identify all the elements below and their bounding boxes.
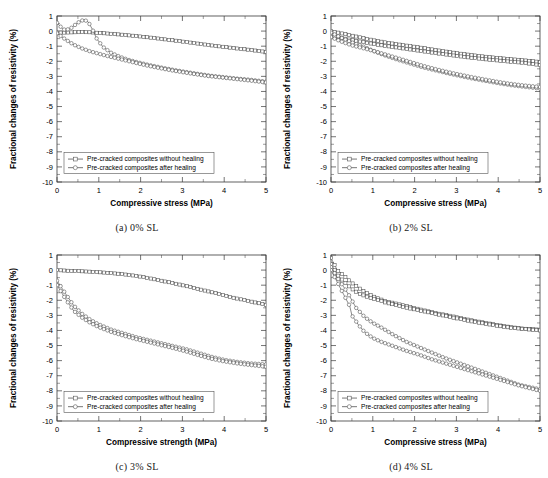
- legend-item[interactable]: Pre-cracked composites without healing: [342, 394, 478, 402]
- legend-item[interactable]: Pre-cracked composites after healing: [68, 164, 196, 172]
- data-marker-circle: [214, 75, 218, 79]
- legend-item[interactable]: Pre-cracked composites without healing: [68, 394, 204, 402]
- legend-item[interactable]: Pre-cracked composites after healing: [342, 403, 470, 411]
- data-marker-circle: [55, 32, 59, 36]
- data-marker-circle: [199, 354, 203, 358]
- data-marker-circle: [383, 328, 387, 332]
- data-marker-square: [225, 294, 228, 297]
- data-marker-circle: [509, 381, 513, 385]
- data-marker-square: [81, 31, 84, 34]
- data-marker-square: [340, 278, 343, 281]
- y-tick-label: -6: [320, 356, 327, 365]
- data-marker-square: [387, 41, 390, 44]
- data-marker-square: [416, 49, 419, 52]
- data-marker-square: [160, 279, 163, 282]
- data-marker-square: [221, 293, 224, 296]
- data-marker-square: [124, 273, 127, 276]
- data-marker-circle: [470, 366, 474, 370]
- data-marker-circle: [221, 76, 225, 80]
- panel-caption: (a) 0% SL: [0, 222, 274, 233]
- data-marker-square: [113, 272, 116, 275]
- data-marker-square: [448, 315, 451, 318]
- legend-item[interactable]: Pre-cracked composites after healing: [68, 403, 196, 411]
- data-marker-circle: [405, 340, 409, 344]
- data-marker-square: [405, 47, 408, 50]
- data-marker-circle: [455, 361, 459, 365]
- y-tick-label: 0: [323, 27, 327, 36]
- data-marker-square: [358, 36, 361, 39]
- data-marker-circle: [192, 352, 196, 356]
- y-tick-label: 1: [49, 12, 53, 21]
- data-marker-square: [394, 43, 397, 46]
- data-marker-square: [192, 42, 195, 45]
- data-marker-circle: [160, 67, 164, 71]
- data-marker-circle: [207, 74, 211, 78]
- data-marker-square: [416, 308, 419, 311]
- data-marker-square: [420, 46, 423, 49]
- data-marker-square: [73, 31, 76, 34]
- data-marker-square: [369, 42, 372, 45]
- data-marker-square: [243, 299, 246, 302]
- data-marker-circle: [445, 70, 449, 74]
- data-marker-circle: [333, 275, 337, 279]
- series-after-healing: [55, 279, 268, 366]
- data-marker-square: [502, 60, 505, 63]
- data-marker-square: [95, 31, 98, 34]
- x-tick-label: 3: [454, 425, 458, 434]
- y-tick-label: -9: [320, 163, 327, 172]
- data-marker-circle: [70, 41, 74, 45]
- data-marker-circle: [383, 341, 387, 345]
- data-marker-square: [70, 31, 73, 34]
- y-tick-label: -7: [320, 371, 327, 380]
- data-marker-circle: [329, 35, 333, 39]
- y-tick-label: 0: [323, 266, 327, 275]
- data-marker-circle: [59, 34, 63, 38]
- data-marker-circle: [203, 74, 207, 78]
- data-marker-circle: [77, 45, 81, 49]
- data-marker-circle: [167, 345, 171, 349]
- y-tick-label: 1: [49, 251, 53, 260]
- legend: Pre-cracked composites without healingPr…: [64, 153, 214, 174]
- data-marker-square: [448, 53, 451, 56]
- data-marker-square: [513, 61, 516, 64]
- data-marker-circle: [77, 313, 81, 317]
- data-marker-circle: [109, 51, 113, 55]
- data-marker-square: [466, 319, 469, 322]
- data-marker-circle: [452, 72, 456, 76]
- data-marker-square: [369, 296, 372, 299]
- data-marker-circle: [362, 314, 366, 318]
- data-marker-circle: [253, 364, 257, 368]
- data-marker-square: [153, 37, 156, 40]
- x-tick-label: 5: [264, 186, 268, 195]
- data-marker-circle: [189, 351, 193, 355]
- data-marker-square: [102, 271, 105, 274]
- chart-panel-d: 01234510-1-2-3-4-5-6-7-8-9-10Compressive…: [274, 239, 548, 478]
- data-marker-circle: [98, 52, 102, 56]
- data-marker-square: [459, 55, 462, 58]
- data-marker-circle: [181, 349, 185, 353]
- data-marker-circle: [499, 378, 503, 382]
- data-marker-circle: [243, 363, 247, 367]
- legend-item[interactable]: Pre-cracked composites without healing: [342, 155, 478, 163]
- data-marker-circle: [264, 365, 268, 369]
- legend-item[interactable]: Pre-cracked composites without healing: [68, 155, 204, 163]
- data-marker-square: [510, 60, 513, 63]
- legend-label: Pre-cracked composites without healing: [361, 394, 478, 402]
- data-marker-square: [192, 286, 195, 289]
- data-marker-square: [365, 37, 368, 40]
- data-marker-square: [142, 276, 145, 279]
- data-marker-square: [66, 269, 69, 272]
- y-tick-label: -1: [320, 42, 327, 51]
- y-tick-label: -1: [46, 281, 53, 290]
- data-marker-circle: [412, 351, 416, 355]
- data-marker-circle: [416, 62, 420, 66]
- legend-item[interactable]: Pre-cracked composites after healing: [342, 164, 470, 172]
- data-marker-circle: [380, 52, 384, 56]
- data-marker-square: [221, 45, 224, 48]
- legend-label: Pre-cracked composites without healing: [87, 394, 204, 402]
- data-marker-square: [55, 269, 58, 272]
- data-marker-square: [538, 60, 541, 63]
- data-marker-circle: [250, 363, 254, 367]
- y-tick-label: -4: [320, 326, 327, 335]
- data-marker-circle: [329, 31, 333, 35]
